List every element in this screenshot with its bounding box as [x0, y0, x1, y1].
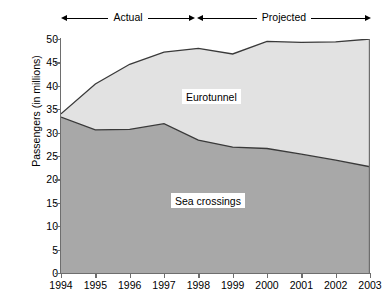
actual-period-arrow: Actual [61, 11, 195, 25]
y-tick-mark [55, 156, 61, 157]
y-tick-mark [55, 109, 61, 110]
stacked-area-svg [61, 39, 370, 273]
arrow-shaft [148, 18, 189, 19]
x-tick-mark [61, 273, 62, 278]
x-tick-mark [130, 273, 131, 278]
y-tick-label: 0 [4, 267, 58, 279]
x-tick-mark [198, 273, 199, 278]
eurotunnel-series-label: Eurotunnel [182, 89, 241, 104]
arrow-shaft [311, 18, 365, 19]
phase-annotation-band: Actual Projected [0, 0, 389, 34]
x-tick-mark [164, 273, 165, 278]
plot-area [61, 39, 370, 273]
arrow-right-icon [189, 15, 195, 21]
x-axis-line [60, 273, 371, 274]
arrow-right-icon [365, 15, 371, 21]
x-tick-mark [370, 273, 371, 278]
x-tick-mark [233, 273, 234, 278]
x-tick-mark [267, 273, 268, 278]
arrow-shaft [203, 18, 257, 19]
y-tick-mark [55, 133, 61, 134]
projected-period-arrow: Projected [197, 11, 371, 25]
y-tick-label: 5 [4, 244, 58, 256]
arrow-shaft [67, 18, 108, 19]
sea-crossings-series-label: Sea crossings [171, 193, 245, 208]
y-tick-mark [55, 86, 61, 87]
y-tick-label: 15 [4, 197, 58, 209]
y-tick-mark [55, 179, 61, 180]
x-tick-label: 2003 [348, 279, 389, 291]
actual-label: Actual [108, 11, 147, 23]
x-tick-mark [301, 273, 302, 278]
y-tick-mark [55, 226, 61, 227]
y-tick-mark [55, 203, 61, 204]
x-tick-mark [336, 273, 337, 278]
y-tick-mark [55, 250, 61, 251]
y-axis-labels: 50454035302520151050 [0, 0, 58, 306]
chart-figure: Actual Projected 50454035302520151050 19… [0, 0, 389, 306]
projected-label: Projected [257, 11, 311, 23]
y-tick-label: 10 [4, 220, 58, 232]
y-tick-mark [55, 39, 61, 40]
x-tick-mark [95, 273, 96, 278]
y-tick-mark [55, 62, 61, 63]
y-axis-title: Passengers (in millions) [30, 31, 42, 191]
